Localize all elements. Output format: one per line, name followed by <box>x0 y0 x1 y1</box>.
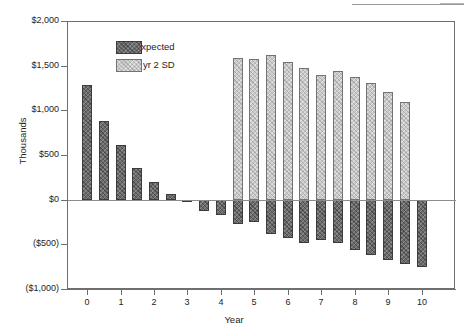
bar-dark <box>216 200 226 216</box>
y-tick-mark <box>61 289 67 290</box>
bar-dark <box>132 168 142 200</box>
bar-chart: $2,000$1,500$1,000$500$0($500)($1,000) 0… <box>0 0 468 336</box>
bar-dark <box>366 200 376 256</box>
y-axis-title: Thousands <box>18 96 28 186</box>
bar-light <box>283 62 293 200</box>
bar-dark <box>383 200 393 260</box>
x-tick-mark <box>321 289 322 295</box>
x-tick-mark <box>154 289 155 295</box>
light-hatched-swatch <box>116 59 142 72</box>
dark-hatched-swatch <box>116 41 142 54</box>
x-tick-label: 10 <box>402 298 442 307</box>
x-tick-mark <box>288 289 289 295</box>
bar-dark <box>166 194 176 199</box>
legend-item-expected: Expected <box>116 38 175 56</box>
bar-dark <box>333 200 343 243</box>
bar-light <box>400 102 410 199</box>
y-tick-mark <box>61 155 67 156</box>
bar-dark <box>82 85 92 199</box>
bar-light <box>299 68 309 200</box>
bar-dark <box>316 200 326 240</box>
bar-dark <box>149 182 159 199</box>
bar-dark <box>249 200 259 222</box>
bar-light <box>316 75 326 199</box>
bar-light <box>333 71 343 200</box>
bar-dark <box>199 200 209 211</box>
zero-baseline <box>67 200 456 201</box>
legend-item-4yr2sd: 4 yr 2 SD <box>116 56 175 74</box>
y-tick-mark <box>61 66 67 67</box>
y-tick-mark <box>61 200 67 201</box>
bar-dark <box>299 200 309 244</box>
bar-light <box>350 77 360 199</box>
bar-dark <box>283 200 293 238</box>
page-top-rule <box>352 4 464 5</box>
bar-dark <box>99 121 109 200</box>
bar-light <box>266 55 276 200</box>
x-tick-mark <box>87 289 88 295</box>
x-tick-mark <box>221 289 222 295</box>
x-tick-mark <box>388 289 389 295</box>
page-top-rule-secondary <box>440 3 464 4</box>
bar-light <box>383 92 393 200</box>
y-tick-label: $0 <box>0 195 59 204</box>
y-tick-label: ($500) <box>0 239 59 248</box>
bar-dark <box>116 145 126 199</box>
bar-light <box>249 59 259 200</box>
y-tick-label: $2,000 <box>0 16 59 25</box>
bar-dark <box>417 200 427 267</box>
y-tick-mark <box>61 110 67 111</box>
y-tick-mark <box>61 244 67 245</box>
x-axis-title: Year <box>0 315 468 325</box>
y-tick-label: ($1,000) <box>0 284 59 293</box>
y-tick-label: $1,500 <box>0 61 59 70</box>
chart-legend: Expected 4 yr 2 SD <box>116 38 175 74</box>
bar-dark <box>266 200 276 234</box>
x-tick-mark <box>121 289 122 295</box>
x-tick-mark <box>355 289 356 295</box>
bar-light <box>233 58 243 200</box>
x-tick-mark <box>422 289 423 295</box>
y-tick-label: $500 <box>0 150 59 159</box>
bar-dark <box>350 200 360 250</box>
y-tick-label: $1,000 <box>0 105 59 114</box>
x-tick-mark <box>254 289 255 295</box>
x-axis-line <box>67 289 456 290</box>
y-tick-mark <box>61 21 67 22</box>
bar-dark <box>233 200 243 225</box>
x-tick-mark <box>187 289 188 295</box>
y-axis-line <box>67 21 68 290</box>
bar-dark <box>400 200 410 264</box>
bar-light <box>366 83 376 200</box>
